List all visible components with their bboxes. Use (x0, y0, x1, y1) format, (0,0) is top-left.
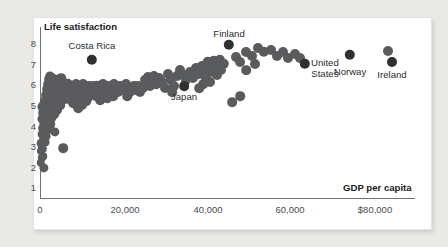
y-tick-8: 8 (22, 39, 36, 49)
highlighted-point-ireland (387, 57, 397, 67)
scatter-point (50, 127, 59, 136)
y-tick-7: 7 (22, 60, 36, 70)
highlighted-point-finland (224, 40, 234, 50)
y-tick-6: 6 (22, 80, 36, 90)
x-tick-80000: $80,000 (358, 205, 392, 215)
scatter-point (58, 143, 68, 153)
x-tick-40000: 40,000 (193, 205, 222, 215)
x-tick-0: 0 (37, 205, 42, 215)
highlighted-point-united-states (300, 59, 310, 69)
scatter-point (383, 46, 393, 56)
x-axis-line (40, 198, 415, 199)
scatter-point (39, 145, 47, 153)
label-japan: Japan (171, 92, 197, 103)
scatter-point (108, 91, 118, 101)
y-axis-title: Life satisfaction (44, 22, 117, 32)
label-costa-rica: Costa Rica (69, 41, 116, 52)
scatter-point (235, 91, 245, 101)
highlighted-point-japan (179, 81, 189, 91)
y-tick-5: 5 (22, 101, 36, 111)
highlighted-point-norway (345, 50, 355, 60)
y-tick-1: 1 (22, 183, 36, 193)
x-tick-20000: 20,000 (110, 205, 139, 215)
y-tick-2: 2 (22, 163, 36, 173)
highlighted-point-costa-rica (87, 55, 97, 65)
scatter-point (250, 59, 260, 69)
scatter-plot: Life satisfaction GDP per capita 8765432… (0, 0, 448, 247)
label-ireland: Ireland (377, 70, 406, 81)
label-norway: Norway (334, 67, 367, 78)
chart-screenshot: Life satisfaction GDP per capita 8765432… (0, 0, 448, 247)
scatter-point (241, 65, 251, 75)
y-tick-4: 4 (22, 122, 36, 132)
x-tick-60000: 60,000 (275, 205, 304, 215)
y-tick-3: 3 (22, 142, 36, 152)
x-axis-title: GDP per capita (343, 183, 412, 193)
label-finland: Finland (213, 29, 244, 40)
scatter-point (219, 59, 229, 69)
scatter-point (39, 163, 48, 172)
